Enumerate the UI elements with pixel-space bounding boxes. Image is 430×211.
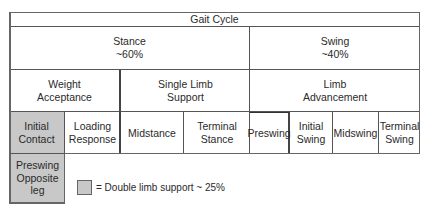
period-swing-label: Swing ~40% [321, 35, 350, 60]
task-single-limb-support: Single Limb Support [119, 70, 250, 112]
task-limb-advancement: Limb Advancement [249, 70, 420, 112]
opposite-leg-preswing: Preswing Opposite leg [9, 153, 65, 204]
phase-loading-response: Loading Response [65, 112, 120, 154]
phase-midswing-label: Midswing [334, 127, 378, 140]
phase-midswing: Midswing [333, 112, 379, 154]
legend-swatch [77, 180, 92, 195]
task-weight-acceptance: Weight Acceptance [9, 70, 120, 112]
phase-initial-swing: Initial Swing [290, 112, 333, 154]
period-stance-label: Stance ~60% [113, 35, 146, 60]
gait-cycle-title-text: Gait Cycle [190, 13, 238, 26]
phase-midstance-label: Midstance [128, 127, 176, 140]
phase-midstance: Midstance [119, 112, 184, 154]
phase-terminal-swing: Terminal Swing [379, 112, 420, 154]
phase-preswing: Preswing [249, 112, 290, 154]
phase-terminal-stance: Terminal Stance [184, 112, 250, 154]
gait-cycle-title: Gait Cycle [9, 12, 420, 27]
task-single-limb-support-label: Single Limb Support [158, 78, 213, 103]
phase-terminal-swing-label: Terminal Swing [380, 120, 420, 145]
task-limb-advancement-label: Limb Advancement [303, 78, 367, 103]
opposite-leg-preswing-label: Preswing Opposite leg [11, 159, 64, 197]
period-stance: Stance ~60% [9, 27, 250, 70]
phase-initial-contact: Initial Contact [9, 112, 65, 154]
phase-initial-swing-label: Initial Swing [297, 120, 326, 145]
legend-label: = Double limb support ~ 25% [96, 181, 225, 194]
phase-initial-contact-label: Initial Contact [18, 120, 54, 145]
period-swing: Swing ~40% [249, 27, 420, 70]
phase-terminal-stance-label: Terminal Stance [197, 120, 237, 145]
phase-preswing-label: Preswing [247, 127, 290, 140]
task-weight-acceptance-label: Weight Acceptance [37, 78, 92, 103]
phase-loading-response-label: Loading Response [69, 120, 116, 145]
